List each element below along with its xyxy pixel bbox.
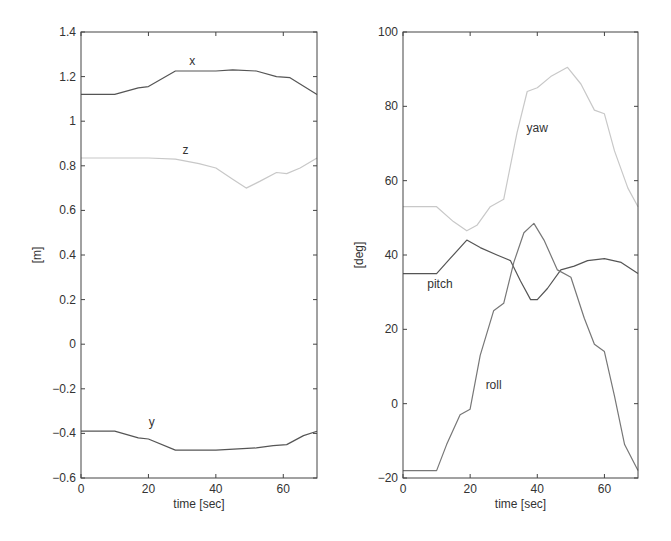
- y-tick-label: 20: [385, 322, 399, 336]
- y-axis-label: [m]: [30, 247, 44, 264]
- x-tick-label: 60: [598, 482, 612, 496]
- y-tick-label: 80: [385, 99, 399, 113]
- y-axis-label: [deg]: [352, 242, 366, 269]
- y-tick-label: 60: [385, 174, 399, 188]
- series-label-x: x: [189, 54, 195, 68]
- right-plot-orientation: yawpitchroll0204060−20020406080100time […: [352, 25, 638, 511]
- axes-frame: [403, 32, 638, 478]
- series-line-x: [81, 70, 317, 95]
- y-tick-label: −0.4: [52, 426, 76, 440]
- figure: xzy0204060−0.6−0.4−0.200.20.40.60.811.21…: [0, 0, 671, 541]
- y-tick-label: 1: [69, 114, 76, 128]
- y-tick-label: −20: [378, 471, 399, 485]
- x-tick-label: 20: [142, 482, 156, 496]
- y-tick-label: 0.8: [59, 159, 76, 173]
- x-tick-label: 60: [277, 482, 291, 496]
- y-tick-label: 1.2: [59, 70, 76, 84]
- x-tick-label: 0: [400, 482, 407, 496]
- y-tick-label: −0.6: [52, 471, 76, 485]
- y-tick-label: 100: [378, 25, 398, 39]
- series-line-roll: [403, 223, 638, 470]
- axes-frame: [81, 32, 317, 478]
- x-tick-label: 40: [209, 482, 223, 496]
- series-label-yaw: yaw: [527, 121, 549, 135]
- series-line-yaw: [403, 67, 638, 231]
- x-axis-label: time [sec]: [495, 497, 546, 511]
- x-tick-label: 40: [531, 482, 545, 496]
- series-label-z: z: [183, 143, 189, 157]
- x-axis-label: time [sec]: [173, 497, 224, 511]
- y-tick-label: 1.4: [59, 25, 76, 39]
- y-tick-label: 0.4: [59, 248, 76, 262]
- y-tick-label: 0.6: [59, 203, 76, 217]
- left-plot-position: xzy0204060−0.6−0.4−0.200.20.40.60.811.21…: [30, 25, 317, 511]
- series-line-y: [81, 431, 317, 450]
- y-tick-label: 40: [385, 248, 399, 262]
- series-line-z: [81, 158, 317, 188]
- y-tick-label: 0.2: [59, 293, 76, 307]
- x-tick-label: 0: [78, 482, 85, 496]
- series-label-pitch: pitch: [427, 277, 452, 291]
- series-label-roll: roll: [486, 378, 502, 392]
- y-tick-label: −0.2: [52, 382, 76, 396]
- series-label-y: y: [149, 415, 155, 429]
- x-tick-label: 20: [463, 482, 477, 496]
- y-tick-label: 0: [69, 337, 76, 351]
- y-tick-label: 0: [391, 397, 398, 411]
